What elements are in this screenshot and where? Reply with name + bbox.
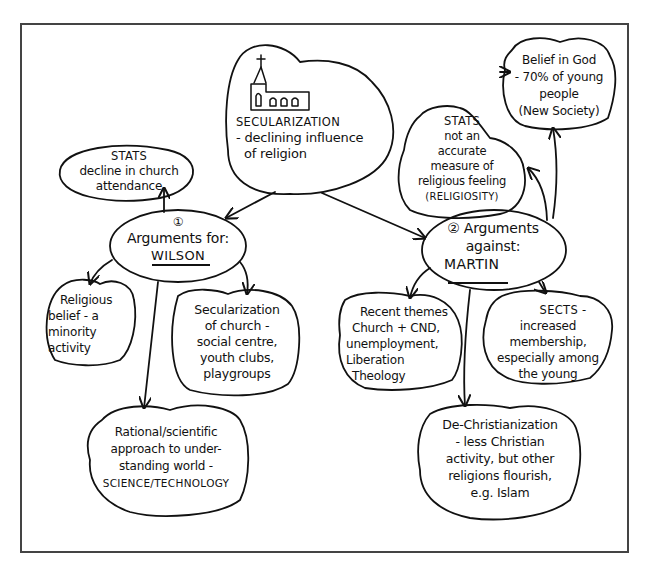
rational-text-2: approach to under- xyxy=(90,441,242,458)
stats2-text-2: accurate xyxy=(398,144,526,159)
against-author: MARTIN xyxy=(428,255,558,273)
arrow-for-to-rational xyxy=(144,282,158,408)
sec-text-4: youth clubs, xyxy=(178,350,296,366)
sects-text-4: the young xyxy=(484,366,612,382)
for-label: Arguments for: xyxy=(112,229,244,247)
sects-text-1: increased xyxy=(484,318,612,334)
recent-themes-node: Recent themes Church + CND, unemployment… xyxy=(340,304,466,384)
stats-text-1: decline in church xyxy=(66,164,192,179)
minority-text-1: Religious xyxy=(48,292,134,308)
against-label-2: against: xyxy=(428,237,558,255)
stats2-text-5: (RELIGIOSITY) xyxy=(398,189,526,204)
god-text-2: - 70% of young xyxy=(506,69,612,86)
secularization-church-node: Secularization of church - social centre… xyxy=(178,302,296,382)
sects-text-2: membership, xyxy=(484,334,612,350)
stats2-label: STATS xyxy=(398,114,526,129)
minority-text-3: minority xyxy=(48,324,134,340)
arrow-against-to-stats xyxy=(528,168,547,220)
recent-text-3: unemployment, xyxy=(346,336,466,352)
stats2-text-1: not an xyxy=(398,129,526,144)
central-subtitle-1: - declining influence xyxy=(236,130,386,146)
central-title: SECULARIZATION xyxy=(236,114,386,130)
church-icon xyxy=(251,55,309,110)
sec-text-5: playgroups xyxy=(178,366,296,382)
stats-text-2: attendance xyxy=(66,179,192,194)
dechrist-text-5: e.g. Islam xyxy=(420,484,580,501)
central-node: SECULARIZATION - declining influence of … xyxy=(236,114,386,162)
sects-text-3: especially among xyxy=(484,350,612,366)
dechrist-text-2: - less Christian xyxy=(420,433,580,450)
dechrist-text-3: activity, but other xyxy=(420,450,580,467)
stats2-text-3: measure of xyxy=(398,159,526,174)
central-subtitle-2: of religion xyxy=(236,146,386,162)
dechrist-text-4: religions flourish, xyxy=(420,467,580,484)
arrow-against-to-god xyxy=(553,128,557,218)
against-heading: ② Arguments xyxy=(428,219,558,237)
minority-text-2: belief - a xyxy=(48,308,134,324)
stats2-text-4: religious feeling xyxy=(398,174,526,189)
arguments-against-node: ② Arguments against: MARTIN xyxy=(428,219,558,273)
recent-text-4: Liberation xyxy=(346,352,466,368)
sec-text-3: social centre, xyxy=(178,334,296,350)
arguments-for-node: ① Arguments for: WILSON xyxy=(112,215,244,265)
rational-text-4: SCIENCE/TECHNOLOGY xyxy=(90,475,242,492)
stats-not-accurate-node: STATS not an accurate measure of religio… xyxy=(398,114,526,204)
recent-text-1: Recent themes xyxy=(346,304,466,320)
belief-in-god-node: Belief in God - 70% of young people (New… xyxy=(506,52,612,120)
rational-text-3: standing world - xyxy=(90,458,242,475)
god-text-3: people xyxy=(506,86,612,103)
against-number: ② xyxy=(447,220,459,236)
sects-node: SECTS - increased membership, especially… xyxy=(484,302,612,382)
arrow-against-to-recent xyxy=(410,268,430,298)
stats-attendance-node: STATS decline in church attendance xyxy=(66,149,192,194)
against-label: Arguments xyxy=(464,220,539,236)
sec-text-1: Secularization xyxy=(178,302,296,318)
god-text-1: Belief in God xyxy=(506,52,612,69)
sec-text-2: of church - xyxy=(178,318,296,334)
rational-scientific-node: Rational/scientific approach to under- s… xyxy=(90,424,242,492)
de-christianization-node: De-Christianization - less Christian act… xyxy=(420,416,580,501)
minority-activity-node: Religious belief - a minority activity xyxy=(48,292,134,356)
dechrist-text-1: De-Christianization xyxy=(420,416,580,433)
minority-text-4: activity xyxy=(48,340,134,356)
for-author: WILSON xyxy=(112,247,244,265)
sects-label: SECTS - xyxy=(484,302,612,318)
rational-text-1: Rational/scientific xyxy=(90,424,242,441)
recent-text-5: Theology xyxy=(346,368,466,384)
stats-label: STATS xyxy=(66,149,192,164)
for-number: ① xyxy=(112,215,244,229)
recent-text-2: Church + CND, xyxy=(346,320,466,336)
